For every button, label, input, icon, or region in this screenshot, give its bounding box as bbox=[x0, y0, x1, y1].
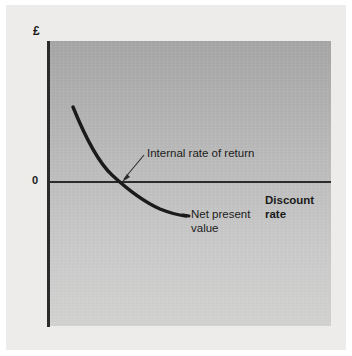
net-present-value-label: Net present value bbox=[191, 208, 250, 235]
y-axis-line bbox=[47, 41, 50, 327]
plot-texture-overlay bbox=[47, 41, 331, 326]
x-axis-discount-rate-label: Discount rate bbox=[265, 194, 314, 221]
internal-rate-of-return-label: Internal rate of return bbox=[147, 147, 254, 161]
zero-horizontal-axis-line bbox=[47, 181, 331, 183]
y-axis-zero-tick-label: 0 bbox=[32, 174, 38, 187]
y-axis-currency-label: £ bbox=[33, 24, 40, 38]
plot-area bbox=[47, 41, 331, 326]
npv-irr-figure: £ 0 Internal rate of return Net present … bbox=[0, 0, 352, 356]
